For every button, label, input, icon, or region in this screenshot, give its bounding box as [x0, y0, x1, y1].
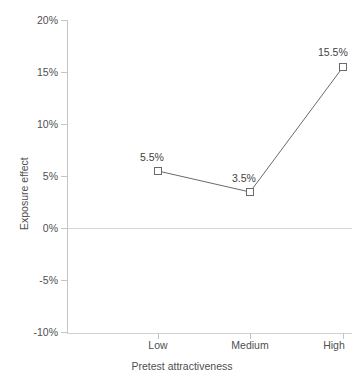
line-chart: 20% 15% 10% 5% 0% -5% -10% Low Medium Hi…: [0, 0, 364, 380]
y-tick-label-minus5: -5%: [14, 275, 58, 286]
x-tick-label-low: Low: [118, 340, 198, 351]
data-point-marker-medium: [247, 189, 254, 196]
data-point-label-high: 15.5%: [318, 47, 348, 58]
y-tick-label-10: 10%: [14, 119, 58, 130]
data-point-marker-low: [155, 168, 162, 175]
data-point-marker-high: [340, 64, 347, 71]
y-tick-label-minus10: -10%: [14, 327, 58, 338]
x-axis-title: Pretest attractiveness: [0, 360, 364, 372]
y-tick-label-20: 20%: [14, 15, 58, 26]
y-tick-label-15: 15%: [14, 67, 58, 78]
x-tick-label-medium: Medium: [210, 340, 290, 351]
y-axis-ticks: [61, 21, 67, 333]
data-point-label-low: 5.5%: [140, 152, 164, 163]
data-point-label-medium: 3.5%: [232, 173, 256, 184]
x-tick-label-high: High: [305, 340, 363, 351]
y-axis-title: Exposure effect: [18, 157, 30, 230]
chart-canvas: [0, 0, 364, 380]
